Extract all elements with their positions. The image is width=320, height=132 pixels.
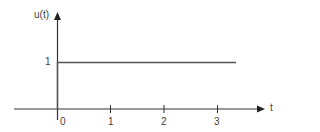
y-axis-arrow-icon [54, 12, 61, 20]
x-tick-label-2: 2 [161, 117, 167, 127]
y-tick-label-1: 1 [45, 57, 51, 67]
step-function-line [58, 63, 237, 110]
x-axis-arrow-icon [257, 106, 265, 113]
x-tick-label-3: 3 [214, 117, 220, 127]
x-tick-label-0: 0 [60, 117, 66, 127]
y-axis-label: u(t) [34, 10, 49, 20]
x-tick-label-1: 1 [108, 117, 114, 127]
x-axis-label: t [270, 103, 273, 113]
